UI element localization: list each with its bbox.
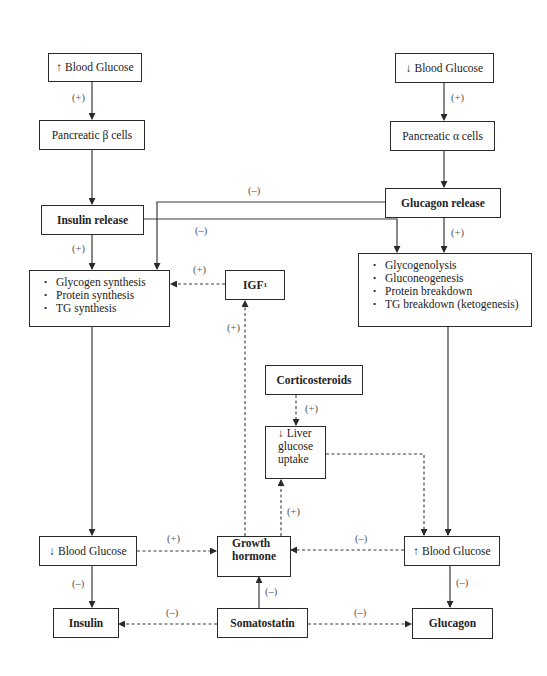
list-item: Protein breakdown <box>371 285 519 298</box>
edge-label: (–) <box>248 185 260 196</box>
node-growth-hormone: Growth hormone <box>217 536 291 577</box>
edge-label: (+) <box>193 264 206 275</box>
node-blood-glucose-down-bottom: ↓ Blood Glucose <box>39 536 137 566</box>
arrow-up-icon: ↑ <box>413 545 419 558</box>
node-label: IGF <box>243 279 263 292</box>
node-blood-glucose-down-top: ↓ Blood Glucose <box>395 53 494 83</box>
node-insulin: Insulin <box>53 608 119 638</box>
synthesis-list: Glycogen synthesis Protein synthesis TG … <box>42 276 146 315</box>
node-label: Blood Glucose <box>58 545 127 558</box>
edge-label: (–) <box>355 533 367 544</box>
node-liver-glucose-uptake: ↓ Liver glucose uptake <box>265 426 326 479</box>
node-label-line: glucose <box>278 440 313 453</box>
list-item: Glycogen synthesis <box>42 276 146 289</box>
node-label: Blood Glucose <box>422 545 491 558</box>
node-label: Glucagon release <box>401 197 485 210</box>
edge-label: (+) <box>451 227 464 238</box>
edge-label: (–) <box>354 607 366 618</box>
node-glucagon-release: Glucagon release <box>385 188 501 218</box>
glucose-regulation-diagram: ↑ Blood Glucose Pancreatic β cells Insul… <box>0 0 547 676</box>
node-label: Blood Glucose <box>65 61 134 74</box>
list-item: TG synthesis <box>42 302 146 315</box>
node-corticosteroids: Corticosteroids <box>265 365 363 395</box>
edge-label: (+) <box>451 92 464 103</box>
edge-label: (–) <box>265 586 277 597</box>
arrow-up-icon: ↑ <box>56 61 62 74</box>
node-label-line: hormone <box>232 550 276 563</box>
node-synthesis-effects: Glycogen synthesis Protein synthesis TG … <box>29 270 170 327</box>
arrow-down-icon: ↓ <box>406 62 412 75</box>
node-insulin-release: Insulin release <box>41 205 144 235</box>
footnote-marker: 1 <box>263 279 267 292</box>
node-label: Pancreatic α cells <box>402 130 483 143</box>
node-blood-glucose-up-bottom: ↑ Blood Glucose <box>404 536 500 566</box>
node-label: Pancreatic β cells <box>52 129 133 142</box>
node-pancreatic-alpha-cells: Pancreatic α cells <box>390 121 495 151</box>
edge-label: (–) <box>195 225 207 236</box>
edge-label: (+) <box>227 322 240 333</box>
node-igf: IGF1 <box>225 270 285 300</box>
node-label: Insulin release <box>57 214 128 227</box>
node-label-line: ↓ Liver <box>278 427 312 440</box>
edge-label: (–) <box>166 607 178 618</box>
edge-label: (+) <box>167 533 180 544</box>
list-item: Protein synthesis <box>42 289 146 302</box>
node-breakdown-effects: Glycogenolysis Gluconeogenesis Protein b… <box>358 253 532 327</box>
edge-label: (–) <box>456 577 468 588</box>
node-label: Insulin <box>69 617 104 630</box>
edge-label: (+) <box>305 403 318 414</box>
node-label: Blood Glucose <box>414 62 483 75</box>
arrow-down-icon: ↓ <box>49 545 55 558</box>
node-blood-glucose-up-top: ↑ Blood Glucose <box>48 53 142 82</box>
node-label: Somatostatin <box>230 617 295 630</box>
edge-label: (+) <box>72 243 85 254</box>
node-glucagon: Glucagon <box>412 608 493 639</box>
list-item: TG breakdown (ketogenesis) <box>371 298 519 311</box>
edge-label: (+) <box>72 92 85 103</box>
list-item: Gluconeogenesis <box>371 272 519 285</box>
list-item: Glycogenolysis <box>371 259 519 272</box>
node-somatostatin: Somatostatin <box>217 608 308 638</box>
edge-label: (–) <box>72 578 84 589</box>
node-label: Glucagon <box>429 617 476 630</box>
node-pancreatic-beta-cells: Pancreatic β cells <box>39 120 145 150</box>
edge-label: (+) <box>287 506 300 517</box>
node-label: Corticosteroids <box>276 374 351 387</box>
node-label-line: uptake <box>278 453 309 466</box>
node-label-line: Growth <box>232 537 270 550</box>
breakdown-list: Glycogenolysis Gluconeogenesis Protein b… <box>371 259 519 311</box>
